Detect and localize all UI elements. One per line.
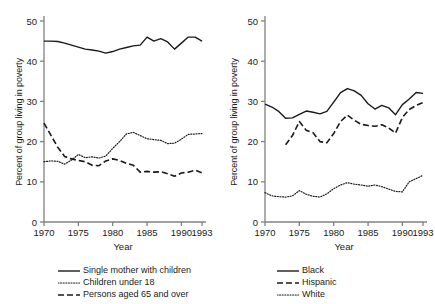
legend-label: Persons aged 65 and over [83,289,189,300]
x-axis-title: Year [334,241,353,252]
legend-item[interactable]: Hispanic [277,277,337,288]
legend-swatch-solid-icon [277,266,299,275]
x-tick-label: 1975 [289,227,310,238]
y-tick-label: 10 [247,176,258,187]
x-tick-label: 1980 [323,227,344,238]
x-tick-label: 1993 [191,227,212,238]
legend-item[interactable]: White [277,289,337,300]
y-tick-label: 40 [26,56,37,67]
series-line [44,123,202,176]
legend-item[interactable]: Single mother with children [58,265,191,276]
legend-item[interactable]: Children under 18 [58,277,191,288]
y-tick-label: 0 [253,217,258,228]
legend-item[interactable]: Black [277,265,337,276]
legend-label: White [302,289,325,300]
series-line [44,132,202,164]
plot-area-left: 01020304050197019751980198519901993Year [0,0,220,255]
plot-area-right: 01020304050197019751980198519901993Year [215,0,435,255]
legend-swatch-dashed-icon [277,278,299,287]
x-axis-title: Year [113,241,132,252]
y-tick-label: 50 [247,16,258,27]
chart-svg: 01020304050197019751980198519901993Year [215,0,435,255]
x-tick-label: 1975 [68,227,89,238]
x-tick-label: 1985 [357,227,378,238]
y-tick-label: 20 [247,136,258,147]
x-tick-label: 1970 [33,227,54,238]
legend-swatch-dashed-icon [58,290,80,299]
x-tick-label: 1980 [102,227,123,238]
x-tick-label: 1990 [392,227,413,238]
chart-svg: 01020304050197019751980198519901993Year [0,0,220,255]
y-tick-label: 40 [247,56,258,67]
y-tick-label: 0 [32,217,37,228]
legend-label: Children under 18 [83,277,155,288]
legend-right: BlackHispanicWhite [277,265,337,301]
x-tick-label: 1990 [171,227,192,238]
x-tick-label: 1970 [254,227,275,238]
legend-label: Hispanic [302,277,337,288]
y-tick-label: 20 [26,136,37,147]
x-tick-label: 1985 [136,227,157,238]
legend-label: Single mother with children [83,265,191,276]
x-tick-label: 1993 [412,227,433,238]
chart-panel-left: Percent of group living in poverty 01020… [0,0,220,255]
series-line [44,37,202,53]
legend-swatch-solid-icon [58,266,80,275]
series-line [286,103,423,145]
y-tick-label: 30 [26,96,37,107]
legend-label: Black [302,265,324,276]
figure-root: Percent of group living in poverty 01020… [0,0,435,304]
legend-left: Single mother with childrenChildren unde… [58,265,191,301]
y-tick-label: 10 [26,176,37,187]
chart-panel-right: Percent of group living in poverty 01020… [215,0,435,255]
legend-swatch-dotted-icon [277,290,299,299]
series-line [265,175,423,197]
legend-item[interactable]: Persons aged 65 and over [58,289,191,300]
series-line [265,89,423,119]
y-tick-label: 30 [247,96,258,107]
y-tick-label: 50 [26,16,37,27]
legend-swatch-dotted-icon [58,278,80,287]
